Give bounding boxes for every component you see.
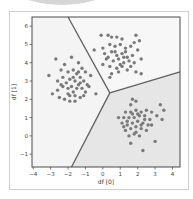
- data-point: [87, 85, 90, 88]
- data-point: [58, 96, 61, 99]
- data-point: [79, 76, 82, 79]
- data-point: [139, 127, 142, 130]
- data-point: [138, 134, 141, 137]
- data-point: [133, 61, 136, 64]
- data-point: [73, 99, 76, 102]
- data-point: [127, 116, 130, 119]
- data-point: [73, 94, 76, 97]
- data-point: [115, 35, 118, 38]
- data-point: [148, 118, 151, 121]
- data-point: [136, 48, 139, 51]
- data-point: [70, 56, 73, 59]
- x-tick-label: 0: [101, 171, 105, 177]
- data-point: [54, 57, 57, 60]
- data-point: [134, 34, 137, 37]
- data-point: [122, 125, 125, 128]
- data-point: [126, 68, 129, 71]
- decorative-arc: [17, 0, 107, 5]
- data-point: [119, 43, 122, 46]
- data-point: [131, 112, 134, 115]
- data-point: [77, 70, 80, 73]
- x-tick-label: −4: [29, 171, 38, 177]
- data-point: [117, 57, 120, 60]
- data-point: [131, 121, 134, 124]
- data-point: [65, 81, 68, 84]
- data-point: [115, 67, 118, 70]
- data-point: [59, 83, 62, 86]
- data-point: [108, 43, 111, 46]
- data-point: [103, 52, 106, 55]
- data-point: [92, 48, 95, 51]
- data-point: [133, 116, 136, 119]
- data-point: [72, 76, 75, 79]
- data-point: [59, 68, 62, 71]
- data-point: [150, 123, 153, 126]
- data-point: [129, 127, 132, 130]
- data-point: [139, 72, 142, 75]
- data-point: [115, 54, 118, 57]
- data-point: [94, 92, 97, 95]
- data-point: [131, 54, 134, 57]
- data-point: [134, 109, 137, 112]
- data-point: [68, 99, 71, 102]
- data-point: [110, 50, 113, 53]
- y-tick-label: 6: [25, 23, 29, 29]
- data-point: [108, 65, 111, 68]
- x-tick-label: 2: [136, 171, 140, 177]
- chart-figure: −4−3−2−101234 −10123456 df [0] df [1]: [0, 0, 193, 199]
- decision-regions: [32, 17, 180, 167]
- data-point: [153, 140, 156, 143]
- data-point: [136, 120, 139, 123]
- x-tick-label: −3: [47, 171, 56, 177]
- data-point: [133, 41, 136, 44]
- data-point: [120, 121, 123, 124]
- y-tick-label: 3: [25, 78, 29, 84]
- y-tick-label: 1: [25, 115, 29, 121]
- x-tick-label: 3: [153, 171, 157, 177]
- data-point: [110, 72, 113, 75]
- data-point: [68, 77, 71, 80]
- data-point: [79, 81, 82, 84]
- data-point: [84, 90, 87, 93]
- data-point: [106, 56, 109, 59]
- data-point: [117, 70, 120, 73]
- data-point: [126, 120, 129, 123]
- data-point: [80, 67, 83, 70]
- x-axis-label: df [0]: [98, 178, 114, 185]
- x-tick-label: 4: [171, 171, 175, 177]
- data-point: [51, 92, 54, 95]
- data-point: [145, 129, 148, 132]
- data-point: [129, 142, 132, 145]
- y-tick-label: 0: [25, 133, 29, 139]
- data-point: [61, 76, 64, 79]
- data-point: [131, 98, 134, 101]
- data-point: [56, 88, 59, 91]
- data-point: [124, 129, 127, 132]
- data-point: [143, 118, 146, 121]
- data-point: [160, 118, 163, 121]
- data-point: [70, 85, 73, 88]
- data-point: [127, 134, 130, 137]
- data-point: [82, 94, 85, 97]
- data-point: [101, 63, 104, 66]
- data-point: [84, 70, 87, 73]
- data-point: [110, 35, 113, 38]
- data-point: [134, 131, 137, 134]
- x-tick-label: −1: [81, 171, 89, 177]
- data-point: [120, 52, 123, 55]
- data-point: [124, 46, 127, 49]
- data-point: [124, 50, 127, 53]
- data-point: [129, 103, 132, 106]
- data-point: [66, 70, 69, 73]
- data-point: [80, 87, 83, 90]
- y-tick-label: 4: [25, 60, 29, 66]
- data-point: [82, 79, 85, 82]
- data-point: [63, 63, 66, 66]
- data-point: [72, 90, 75, 93]
- data-point: [77, 61, 80, 64]
- x-tick-label: 1: [119, 171, 123, 177]
- data-point: [73, 79, 76, 82]
- data-point: [155, 114, 158, 117]
- x-tick-label: −2: [64, 171, 72, 177]
- data-point: [122, 61, 125, 64]
